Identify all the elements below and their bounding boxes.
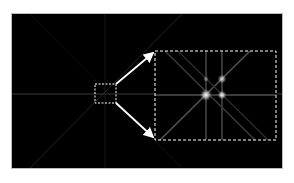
figure-overlay xyxy=(0,0,294,183)
selection-box xyxy=(95,84,116,103)
lower-arrow xyxy=(116,103,153,137)
zoom-inset-content xyxy=(155,51,276,140)
upper-arrow xyxy=(116,53,153,84)
